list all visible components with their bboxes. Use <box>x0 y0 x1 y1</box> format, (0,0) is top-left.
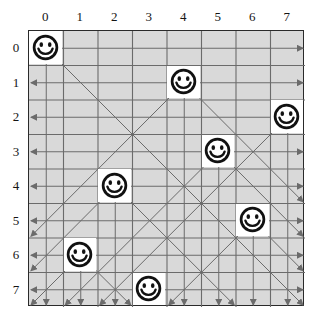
row-label-6: 6 <box>8 248 24 260</box>
smiley-face-icon <box>32 34 59 61</box>
column-label-2: 2 <box>104 10 124 23</box>
column-label-6: 6 <box>242 10 262 23</box>
queen-r7-c3[interactable] <box>133 273 166 306</box>
queen-r3-c5[interactable] <box>202 135 235 168</box>
row-label-4: 4 <box>8 179 24 191</box>
row-label-3: 3 <box>8 145 24 157</box>
chessboard-queens-diagram: 01234567 01234567 <box>0 0 316 331</box>
column-label-0: 0 <box>35 10 55 23</box>
queen-r4-c2[interactable] <box>98 169 131 202</box>
smiley-face-icon <box>204 137 231 164</box>
smiley-face-icon <box>239 206 266 233</box>
column-label-5: 5 <box>208 10 228 23</box>
queen-r2-c7[interactable] <box>271 100 304 133</box>
column-label-7: 7 <box>277 10 297 23</box>
queen-r5-c6[interactable] <box>236 204 269 237</box>
smiley-face-icon <box>273 103 300 130</box>
row-label-5: 5 <box>8 214 24 226</box>
row-label-1: 1 <box>8 76 24 88</box>
queen-r1-c4[interactable] <box>167 66 200 99</box>
smiley-face-icon <box>135 275 162 302</box>
row-label-2: 2 <box>8 110 24 122</box>
row-label-0: 0 <box>8 41 24 53</box>
column-label-1: 1 <box>70 10 90 23</box>
row-label-7: 7 <box>8 283 24 295</box>
queen-r6-c1[interactable] <box>64 238 97 271</box>
column-label-4: 4 <box>173 10 193 23</box>
smiley-face-icon <box>66 241 93 268</box>
queen-r0-c0[interactable] <box>29 31 62 64</box>
smiley-face-icon <box>170 68 197 95</box>
smiley-face-icon <box>101 172 128 199</box>
column-label-3: 3 <box>139 10 159 23</box>
